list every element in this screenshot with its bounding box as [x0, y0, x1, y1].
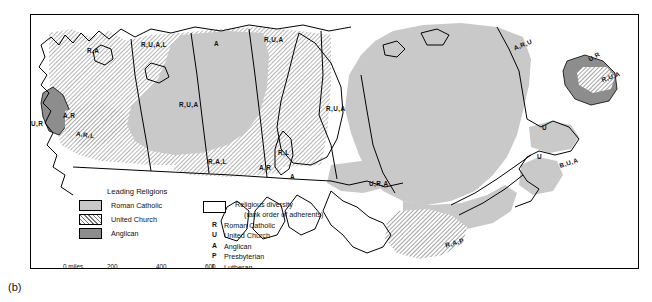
rank-label-P: Presbyterian: [224, 252, 264, 261]
legend-title: Leading Religions: [107, 187, 339, 196]
map-region-label: R,U,A,L: [141, 41, 167, 48]
swatch-roman-catholic: [79, 200, 102, 211]
map-region-label: R,A: [87, 47, 99, 54]
figure-caption: (b): [8, 281, 21, 293]
scale-miles-labels: 0 miles 200 400 600: [63, 263, 233, 269]
rank-item-united-church: U United Church: [203, 231, 353, 240]
map-region-label: A: [290, 173, 295, 180]
scale-bars: 0 miles 200 400 600 0 kilometers 400 600: [63, 263, 233, 269]
map-region-label: A,R: [259, 164, 271, 171]
scale-miles-tick-1: 200: [107, 263, 118, 269]
rank-label-R: Roman Catholic: [224, 221, 275, 230]
scale-miles-tick-2: 400: [156, 263, 167, 269]
rank-item-roman-catholic: R Roman Catholic: [203, 221, 353, 230]
diversity-heading: Religious diversity (rank order of adher…: [203, 200, 353, 219]
map-region-label: R,A,L: [208, 158, 227, 165]
rank-key-P: P: [212, 252, 224, 261]
swatch-united-church: [79, 214, 102, 225]
scale-miles-unit: 0 miles: [63, 263, 83, 269]
map-region-label: A,R: [63, 112, 75, 119]
rank-key-R: R: [212, 221, 224, 230]
figure-map-canadian-religions: R,A R,U,A,L A R,U,A A,R,U U,R R,U,A U,R …: [0, 0, 652, 302]
map-region-label: R,L: [278, 149, 290, 156]
legend-label-united-church: United Church: [111, 215, 157, 224]
map-region-label: U,R: [31, 120, 43, 127]
map-region-label: R,U,A: [264, 36, 283, 43]
swatch-anglican: [79, 228, 102, 239]
map-region-label: A: [214, 40, 219, 47]
rank-item-presbyterian: P Presbyterian: [203, 252, 353, 261]
legend-religious-diversity: Religious diversity (rank order of adher…: [203, 200, 353, 269]
map-region-label: R,U,A: [179, 101, 198, 108]
rank-label-U: United Church: [224, 231, 270, 240]
rank-key-U: U: [212, 231, 224, 240]
diversity-heading-line2: (rank order of adherents): [244, 210, 324, 220]
diversity-heading-line1: Religious diversity: [235, 200, 293, 209]
map-region-label: U: [537, 153, 542, 160]
swatch-religious-diversity: [203, 201, 226, 213]
rank-label-A: Anglican: [224, 242, 252, 251]
legend-label-anglican: Anglican: [111, 229, 139, 238]
map-region-label: U: [542, 124, 547, 131]
rank-key-A: A: [212, 242, 224, 251]
map-region-label: U,R,A: [369, 180, 388, 187]
legend-label-roman-catholic: Roman Catholic: [111, 201, 162, 210]
map-frame: R,A R,U,A,L A R,U,A A,R,U U,R R,U,A U,R …: [30, 14, 639, 269]
map-region-label: R,U,A: [326, 105, 345, 112]
rank-item-anglican: A Anglican: [203, 242, 353, 251]
scale-miles-tick-3: 600: [205, 263, 216, 269]
